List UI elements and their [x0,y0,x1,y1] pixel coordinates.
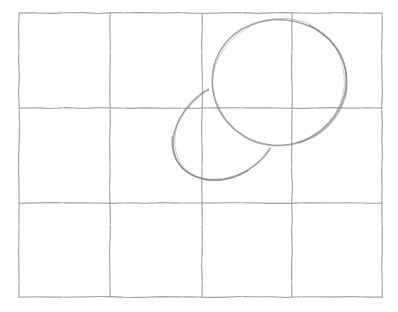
pencil-sketch [0,0,398,312]
sketch-canvas [0,0,398,312]
paper-background [0,0,398,312]
